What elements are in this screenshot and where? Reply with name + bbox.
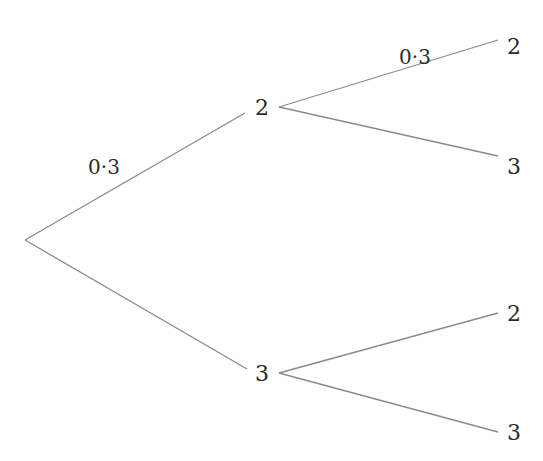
branch-3-to-3 bbox=[279, 373, 498, 432]
probability-tree-diagram: 2 3 2 3 2 3 0·3 0·3 bbox=[0, 0, 543, 461]
branch-3-to-2 bbox=[279, 313, 498, 373]
branch-2-to-3 bbox=[279, 107, 498, 156]
leaf-3-3: 3 bbox=[507, 420, 521, 445]
probability-label-root-to-2: 0·3 bbox=[88, 155, 120, 179]
branch-2-to-2 bbox=[279, 40, 498, 107]
node-level1-3: 3 bbox=[255, 361, 269, 386]
branch-root-to-2 bbox=[25, 113, 245, 240]
leaf-2-2: 2 bbox=[507, 34, 521, 59]
leaf-3-2: 2 bbox=[507, 301, 521, 326]
branch-root-to-3 bbox=[25, 240, 247, 369]
node-level1-2: 2 bbox=[255, 95, 269, 120]
probability-label-2-to-2: 0·3 bbox=[399, 45, 431, 69]
leaf-2-3: 3 bbox=[507, 154, 521, 179]
